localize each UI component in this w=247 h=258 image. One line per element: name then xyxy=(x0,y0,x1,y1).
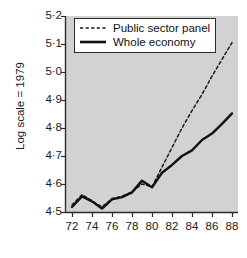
legend-item-public-sector-panel: Public sector panel xyxy=(79,21,210,35)
legend-item-whole-economy: Whole economy xyxy=(79,35,210,49)
solid-line-icon xyxy=(79,37,107,47)
chart-legend: Public sector panel Whole economy xyxy=(74,18,216,53)
dashed-line-icon xyxy=(79,23,107,33)
legend-label-whole-economy: Whole economy xyxy=(113,36,195,48)
chart-figure: Log scale = 1979 5·25·15·04·94·84·74·64·… xyxy=(0,0,247,258)
legend-label-public-sector-panel: Public sector panel xyxy=(113,22,210,34)
